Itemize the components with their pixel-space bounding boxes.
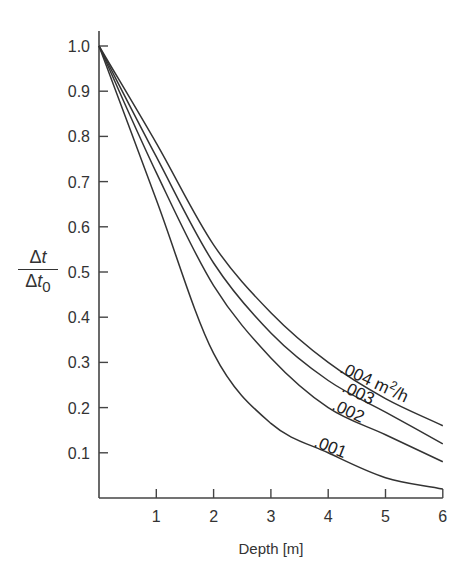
- y-tick-label: 0.2: [68, 400, 90, 417]
- curve-label: .001: [312, 432, 350, 462]
- curves: [99, 46, 443, 489]
- x-tick-label: 4: [324, 508, 333, 525]
- y-tick-label: 0.4: [68, 309, 90, 326]
- x-tick-label: 2: [209, 508, 218, 525]
- y-axis-title: Δt Δt0: [18, 247, 58, 295]
- y-tick-label: 0.5: [68, 264, 90, 281]
- curve-004: [99, 46, 443, 426]
- y-tick-label: 0.8: [68, 128, 90, 145]
- x-tick-label: 1: [152, 508, 161, 525]
- y-tick-label: 0.6: [68, 219, 90, 236]
- curve-001: [99, 46, 443, 489]
- chart: 0.10.20.30.40.50.60.70.80.91.0123456 .00…: [0, 0, 470, 588]
- y-tick-label: 0.1: [68, 445, 90, 462]
- x-tick-label: 3: [266, 508, 275, 525]
- y-axis-title-denominator: Δt0: [18, 270, 58, 295]
- y-tick-label: 0.7: [68, 174, 90, 191]
- x-tick-label: 6: [438, 508, 447, 525]
- y-tick-label: 0.9: [68, 83, 90, 100]
- y-axis-title-numerator: Δt: [18, 247, 58, 270]
- curve-labels: .004 m2/h.003.002.001: [312, 356, 413, 462]
- x-axis-title: Depth [m]: [238, 540, 303, 557]
- y-tick-label: 0.3: [68, 354, 90, 371]
- x-tick-label: 5: [381, 508, 390, 525]
- y-tick-label: 1.0: [68, 38, 90, 55]
